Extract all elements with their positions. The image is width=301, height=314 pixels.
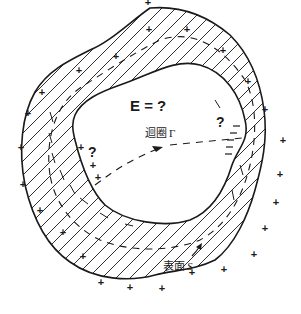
svg-text:+: + [20, 178, 26, 190]
svg-text:+: + [146, 23, 152, 35]
gauss-conductor-diagram: + + + + + + + + + + + + + + + + + + + + … [0, 0, 301, 314]
svg-text:+: + [273, 196, 279, 208]
loop-label-text: 迴圈 [145, 127, 167, 140]
svg-text:+: + [245, 75, 251, 87]
svg-text:+: + [60, 226, 66, 238]
svg-text:+: + [18, 141, 24, 153]
svg-text:+: + [221, 263, 227, 275]
diagram-svg: + + + + + + + + + + + + + + + + + + + + … [0, 0, 301, 314]
svg-text:+: + [76, 64, 82, 76]
svg-text:+: + [262, 103, 268, 115]
svg-text:+: + [127, 281, 133, 293]
field-question-label: E = ? [130, 97, 166, 114]
svg-text:+: + [251, 248, 257, 260]
svg-text:+: + [25, 107, 31, 119]
question-mark-right: ? [216, 114, 225, 130]
svg-text:+: + [95, 171, 101, 183]
svg-text:+: + [277, 168, 283, 180]
svg-text:+: + [145, 0, 151, 8]
surface-arrow-head-icon [196, 243, 202, 250]
svg-text:+: + [220, 44, 226, 56]
svg-text:+: + [184, 23, 190, 35]
svg-text:+: + [98, 276, 104, 288]
surface-label-symbol: S [187, 260, 193, 272]
surface-label: 表面S [163, 256, 193, 274]
svg-text:+: + [90, 159, 96, 171]
svg-text:+: + [113, 50, 119, 62]
svg-text:+: + [39, 86, 45, 98]
svg-text:+: + [80, 250, 86, 262]
loop-label: 迴圈Γ [145, 123, 175, 141]
loop-label-symbol: Γ [169, 127, 175, 139]
question-mark-left: ? [88, 144, 97, 160]
svg-text:+: + [159, 282, 165, 294]
svg-text:+: + [78, 141, 84, 153]
cavity-surface [73, 63, 246, 223]
svg-text:+: + [37, 204, 43, 216]
surface-label-text: 表面 [163, 260, 185, 273]
svg-text:+: + [280, 134, 286, 146]
svg-text:+: + [262, 222, 268, 234]
